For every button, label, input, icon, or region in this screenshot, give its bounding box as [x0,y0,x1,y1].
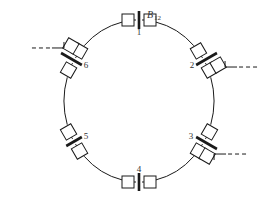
node-label-3: 3 [189,131,194,141]
ring-segment [64,77,67,124]
node-label-6: 6 [84,60,89,70]
node-label-5: 5 [84,131,89,141]
node-label-2: 2 [190,60,195,70]
node-2: 2 [190,43,259,78]
feeder-line [214,154,226,160]
ring-arcs [64,22,214,180]
bus-label-main: B [147,9,153,20]
connector [205,137,206,139]
breaker-box [144,176,156,188]
ring-bus-diagram: 123456 B12 [0,0,279,201]
feeder-line [225,61,237,67]
node-3: 3 [189,124,248,164]
connector [72,63,73,65]
breaker-box [60,62,76,78]
breaker-box [60,124,76,140]
node-label-4: 4 [137,164,142,174]
ring-segment [156,156,194,180]
node-5: 5 [60,124,88,159]
bus-label-subscript: 12 [154,14,162,22]
connector [72,137,73,139]
connector [76,56,77,58]
diagram-canvas: 123456 B12 [0,0,279,201]
node-4: 4 [122,164,156,191]
connector [201,56,202,58]
ring-segment [84,156,122,180]
ring-segment [84,22,122,46]
breaker-box [122,176,134,188]
node-6: 6 [30,38,89,78]
connector [205,63,206,65]
breaker-box [201,124,217,140]
connector [201,144,202,146]
feeder-line [52,42,64,48]
connector [76,144,77,146]
breaker-box [71,143,87,159]
breaker-box [122,14,134,26]
ring-segment [211,77,214,124]
breaker-box [190,43,206,59]
node-label-1: 1 [137,27,142,37]
ring-segment [156,22,194,46]
